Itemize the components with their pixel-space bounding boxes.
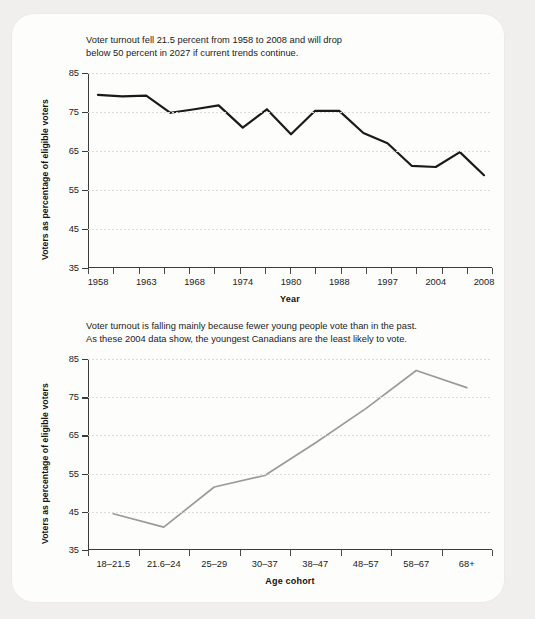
x-axis-tick [88,550,89,556]
gridline [88,73,492,74]
y-axis-tick-label: 75 [69,392,79,402]
x-axis-tick-label: 1997 [377,277,398,287]
x-axis-tick-label: 21.6–24 [147,559,181,569]
gridline [88,474,492,475]
panel-2-plot-area: 35455565758518–21.521.6–2425–2930–3738–4… [88,359,492,550]
x-axis-tick [492,268,493,274]
gridline [88,229,492,230]
x-axis-tick [416,268,417,274]
x-axis-tick-label: 1980 [281,277,302,287]
y-axis-tick [82,359,88,360]
data-line [98,95,484,175]
x-axis-tick [341,550,342,556]
x-axis-tick [240,268,241,274]
x-axis-tick [442,550,443,556]
y-axis-tick-label: 75 [69,107,79,117]
panel-1-plot-area: 3545556575851958196319681974198019881997… [88,73,492,268]
x-axis-tick [492,550,493,556]
x-axis-tick [341,268,342,274]
y-axis-tick-label: 85 [69,354,79,364]
x-axis-tick-label: 38–47 [302,559,328,569]
y-axis-tick-label: 45 [69,224,79,234]
data-line [113,370,467,527]
x-axis-tick [315,268,316,274]
y-axis-tick-label: 45 [69,507,79,517]
panel-1-y-axis-title: Voters as percentage of eligible voters [40,99,50,260]
panel-2-y-axis-title: Voters as percentage of eligible voters [40,383,50,544]
x-axis-tick [391,268,392,274]
y-axis-tick-label: 65 [69,146,79,156]
y-axis-tick [82,435,88,436]
panel-1-line-series [88,73,492,268]
y-axis-tick-label: 35 [69,263,79,273]
x-axis-tick [164,268,165,274]
x-axis-tick-label: 2004 [425,277,446,287]
x-axis-tick [265,268,266,274]
gridline [88,112,492,113]
figure-card: Voter turnout fell 21.5 percent from 195… [12,14,504,602]
gridline [88,151,492,152]
x-axis-tick-label: 68+ [459,559,475,569]
x-axis-tick [391,550,392,556]
x-axis-tick [240,550,241,556]
x-axis-tick-label: 1968 [184,277,205,287]
x-axis-tick-label: 1963 [136,277,157,287]
x-axis-tick [214,268,215,274]
x-axis-tick [113,268,114,274]
x-axis-tick [290,550,291,556]
x-axis-tick-label: 25–29 [201,559,227,569]
x-axis-tick-label: 1958 [88,277,109,287]
y-axis-tick-label: 85 [69,68,79,78]
x-axis-tick-label: 18–21.5 [96,559,130,569]
y-axis-tick-label: 65 [69,430,79,440]
gridline [88,435,492,436]
gridline [88,397,492,398]
x-axis-tick [366,268,367,274]
x-axis-tick [189,550,190,556]
panel-2-x-axis-title: Age cohort [88,576,492,586]
panel-1-caption: Voter turnout fell 21.5 percent from 195… [86,34,486,60]
y-axis-tick [82,512,88,513]
y-axis-tick [82,397,88,398]
x-axis-tick-label: 30–37 [252,559,278,569]
y-axis-tick [82,151,88,152]
x-axis-tick-label: 1974 [232,277,253,287]
panel-1-x-axis-title: Year [88,294,492,304]
x-axis-tick [139,550,140,556]
x-axis-tick [139,268,140,274]
x-axis-tick [189,268,190,274]
y-axis-tick [82,190,88,191]
gridline [88,190,492,191]
y-axis-tick [82,112,88,113]
x-axis-tick-label: 2008 [474,277,495,287]
x-axis-tick-label: 58–67 [403,559,429,569]
x-axis-tick [88,268,89,274]
y-axis-tick [82,474,88,475]
y-axis-tick-label: 55 [69,469,79,479]
y-axis-tick-label: 35 [69,545,79,555]
x-axis-tick [442,268,443,274]
y-axis-tick-label: 55 [69,185,79,195]
panel-2-caption: Voter turnout is falling mainly because … [86,320,496,346]
panel-2-line-series [88,359,492,550]
x-axis-tick-label: 1988 [329,277,350,287]
y-axis-tick [82,73,88,74]
x-axis-tick-label: 48–57 [353,559,379,569]
y-axis-tick [82,229,88,230]
x-axis-tick [290,268,291,274]
x-axis-tick [467,268,468,274]
gridline [88,512,492,513]
gridline [88,359,492,360]
